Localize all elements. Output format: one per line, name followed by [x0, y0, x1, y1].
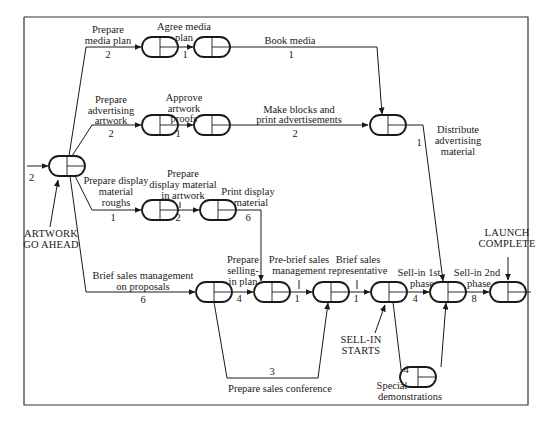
duration-brief-sales-management: 6	[140, 294, 145, 305]
label-prepare-display-artwork-3: in artwork	[161, 190, 205, 201]
node-10	[313, 282, 349, 302]
label-pre-brief-sales-management-1: Pre-brief sales	[269, 254, 329, 265]
label-approve-artwork-proofs-1: Approve	[166, 92, 203, 103]
artwork-go-ahead-pointer	[50, 180, 58, 227]
duration-distribute-material: 1	[416, 137, 421, 148]
label-approve-artwork-proofs-3: proofs	[171, 113, 198, 124]
label-distribute-material-1: Distribute	[437, 124, 479, 135]
label-print-display-material-1: Print display	[221, 186, 275, 197]
diagram-frame	[24, 17, 528, 405]
label-brief-sales-representative-1: Brief sales	[336, 254, 381, 265]
node-6	[200, 200, 236, 220]
label-sell-in-2nd-phase-2: phase	[467, 278, 491, 289]
node-5	[142, 200, 178, 220]
edge-special-demonstrations	[393, 302, 402, 377]
node-8	[196, 282, 232, 302]
duration-sell-in-2nd-phase: 8	[471, 293, 476, 304]
label-brief-sales-management-2: on proposals	[116, 281, 169, 292]
label-print-display-material-2: material	[234, 197, 268, 208]
node-1	[142, 37, 178, 57]
duration-agree-media-plan: 1	[182, 49, 187, 60]
label-make-blocks-2: print advertisements	[256, 114, 341, 125]
node-11	[371, 282, 407, 302]
network-diagram: 2 Prepare media plan 2 Agree media plan …	[0, 0, 552, 424]
label-special-demonstrations-2: demonstrations	[378, 391, 442, 402]
label-prepare-media-plan-2: media plan	[85, 35, 132, 46]
label-prepare-advertising-artwork-3: artwork	[95, 115, 128, 126]
label-sell-in-1st-phase-2: phase	[410, 278, 434, 289]
milestone-artwork-go-ahead-1: ARTWORK	[24, 228, 78, 239]
label-agree-media-plan-1: Agree media	[157, 21, 211, 32]
edge-demonstrations-to-sell-in	[441, 303, 446, 367]
label-special-demonstrations-1: Special	[377, 380, 408, 391]
node-4	[194, 115, 230, 135]
duration-book-media: 1	[288, 49, 293, 60]
label-prepare-sales-conference: Prepare sales conference	[228, 383, 332, 394]
node-2	[194, 37, 230, 57]
label-prepare-advertising-artwork-1: Prepare	[95, 94, 127, 105]
label-sell-in-2nd-phase-1: Sell-in 2nd	[454, 267, 501, 278]
node-start	[49, 156, 85, 176]
duration-make-blocks: 2	[292, 128, 297, 139]
duration-pre-brief-sales-management: 1	[294, 293, 299, 304]
label-prepare-selling-in-plan-2: selling-	[227, 265, 259, 276]
label-prepare-display-roughs-3: roughs	[102, 197, 131, 208]
duration-approve-artwork-proofs: 1	[175, 128, 180, 139]
label-prepare-media-plan-1: Prepare	[92, 24, 124, 35]
label-sell-in-1st-phase-1: Sell-in 1st	[398, 267, 441, 278]
node-9	[254, 282, 290, 302]
node-7	[370, 115, 406, 135]
label-prepare-display-roughs-2: material	[99, 186, 133, 197]
label-prepare-selling-in-plan-3: in plan	[229, 276, 259, 287]
nodes	[49, 37, 526, 387]
duration-print-display-material: 6	[245, 212, 250, 223]
label-prepare-display-artwork-2: display material	[149, 179, 216, 190]
label-agree-media-plan-2: plan	[175, 32, 194, 43]
label-book-media: Book media	[264, 35, 315, 46]
duration-brief-sales-representative: 1	[353, 293, 358, 304]
labels: 2 Prepare media plan 2 Agree media plan …	[23, 21, 535, 402]
label-prepare-selling-in-plan-1: Prepare	[227, 254, 259, 265]
milestone-artwork-go-ahead-2: GO AHEAD	[23, 239, 79, 250]
sell-in-starts-pointer	[375, 305, 385, 333]
duration-prepare-advertising-artwork: 2	[108, 128, 113, 139]
duration-sell-in-1st-phase: 4	[412, 293, 418, 304]
edge-distribute-material	[406, 125, 443, 281]
node-13	[490, 282, 526, 302]
label-prepare-display-roughs-1: Prepare display	[83, 175, 149, 186]
label-prepare-display-artwork-1: Prepare	[167, 168, 199, 179]
edge-prepare-advertising-artwork	[72, 125, 141, 156]
duration-prepare-display-roughs: 1	[110, 212, 115, 223]
milestone-sell-in-starts-2: STARTS	[342, 345, 381, 356]
duration-special-demonstrations: 4	[403, 364, 409, 375]
duration-prepare-sales-conference: 3	[269, 366, 274, 377]
label-distribute-material-2: advertising	[435, 135, 482, 146]
duration-prepare-selling-in-plan: 4	[236, 293, 242, 304]
duration-prepare-media-plan: 2	[105, 49, 110, 60]
duration-prepare-display-artwork: 2	[175, 212, 180, 223]
label-brief-sales-representative-2: representative	[329, 265, 388, 276]
node-12	[430, 282, 466, 302]
label-brief-sales-management-1: Brief sales management	[93, 270, 194, 281]
label-distribute-material-3: material	[441, 146, 475, 157]
entry-duration: 2	[29, 172, 34, 183]
milestone-launch-complete-1: LAUNCH	[485, 227, 530, 238]
milestone-sell-in-starts-1: SELL-IN	[340, 334, 381, 345]
label-pre-brief-sales-management-2: management	[272, 265, 326, 276]
milestone-launch-complete-2: COMPLETE	[478, 238, 535, 249]
